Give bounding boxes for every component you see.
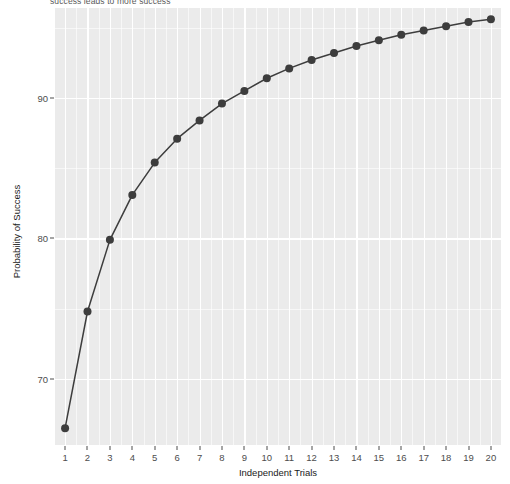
data-point	[487, 15, 495, 23]
x-tick-label: 11	[284, 452, 294, 463]
data-point	[397, 31, 405, 39]
data-point	[61, 424, 69, 432]
x-tick-mark	[154, 446, 155, 450]
x-tick-label: 13	[329, 452, 340, 463]
data-point	[196, 116, 204, 124]
x-tick-mark	[199, 446, 200, 450]
data-point	[128, 191, 136, 199]
y-tick-mark	[50, 378, 54, 379]
data-point	[151, 159, 159, 167]
x-tick-mark	[266, 446, 267, 450]
x-tick-label: 17	[418, 452, 429, 463]
data-point	[173, 135, 181, 143]
data-point	[442, 22, 450, 30]
x-tick-label: 6	[174, 452, 179, 463]
data-point	[465, 18, 473, 26]
x-tick-mark	[221, 446, 222, 450]
data-point	[352, 42, 360, 50]
x-tick-mark	[378, 446, 379, 450]
x-tick-label: 9	[242, 452, 247, 463]
x-tick-mark	[132, 446, 133, 450]
y-tick-mark	[50, 97, 54, 98]
y-axis-title: Probability of Success	[11, 132, 22, 332]
x-tick-label: 14	[351, 452, 362, 463]
x-tick-mark	[468, 446, 469, 450]
y-tick-mark	[50, 238, 54, 239]
data-point	[218, 100, 226, 108]
x-tick-mark	[423, 446, 424, 450]
data-point	[106, 236, 114, 244]
x-tick-mark	[87, 446, 88, 450]
x-tick-mark	[356, 446, 357, 450]
x-tick-label: 19	[463, 452, 474, 463]
x-tick-label: 4	[130, 452, 135, 463]
data-point	[375, 36, 383, 44]
chart-subtitle: success leads to more success	[50, 0, 171, 6]
x-tick-label: 12	[306, 452, 317, 463]
y-tick-label: 80	[37, 233, 48, 244]
data-point	[240, 87, 248, 95]
x-tick-label: 3	[107, 452, 112, 463]
series-line	[65, 19, 491, 428]
y-tick-label: 70	[37, 373, 48, 384]
x-tick-label: 8	[219, 452, 224, 463]
x-tick-label: 7	[197, 452, 202, 463]
x-tick-mark	[401, 446, 402, 450]
data-point	[308, 56, 316, 64]
x-tick-label: 15	[374, 452, 385, 463]
x-tick-mark	[311, 446, 312, 450]
x-tick-label: 5	[152, 452, 157, 463]
plot-panel	[55, 8, 501, 445]
x-axis-title: Independent Trials	[55, 467, 501, 478]
x-tick-label: 16	[396, 452, 407, 463]
x-tick-label: 2	[85, 452, 90, 463]
data-point	[420, 26, 428, 34]
chart-container: success leads to more success 708090 123…	[0, 0, 510, 484]
x-tick-label: 18	[441, 452, 452, 463]
x-tick-mark	[334, 446, 335, 450]
data-point	[285, 64, 293, 72]
x-tick-mark	[490, 446, 491, 450]
data-point	[84, 308, 92, 316]
x-tick-mark	[289, 446, 290, 450]
data-point	[263, 74, 271, 82]
y-tick-label: 90	[37, 92, 48, 103]
x-tick-mark	[446, 446, 447, 450]
x-tick-label: 10	[261, 452, 272, 463]
x-tick-mark	[244, 446, 245, 450]
x-tick-mark	[65, 446, 66, 450]
x-tick-label: 20	[486, 452, 497, 463]
x-tick-mark	[177, 446, 178, 450]
x-tick-mark	[109, 446, 110, 450]
data-series-line	[55, 8, 501, 445]
x-tick-label: 1	[62, 452, 67, 463]
data-point	[330, 49, 338, 57]
